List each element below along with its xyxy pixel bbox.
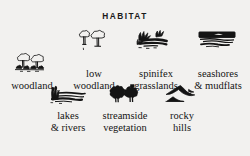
legend-row: lakes & rivers xyxy=(0,82,250,133)
legend-item-lakes-rivers: lakes & rivers xyxy=(40,82,97,133)
legend-item-label: rocky hills xyxy=(170,110,194,133)
low-woodland-trees-icon xyxy=(71,28,117,54)
legend-item-label: streamside vegetation xyxy=(103,110,148,133)
lake-river-reeds-icon xyxy=(45,82,91,108)
streamside-shrubs-icon xyxy=(102,82,148,108)
habitat-legend: HABITAT xyxy=(0,0,250,156)
legend-title: HABITAT xyxy=(10,11,240,21)
legend-item-streamside-vegetation: streamside vegetation xyxy=(97,82,154,133)
legend-item-label: lakes & rivers xyxy=(51,110,86,133)
spinifex-grass-tufts-icon xyxy=(133,28,179,54)
rocky-hills-peaks-icon xyxy=(159,82,205,108)
legend-item-rocky-hills: rocky hills xyxy=(154,82,211,133)
woodland-trees-icon xyxy=(9,51,55,77)
seashore-mudflat-horizon-icon xyxy=(195,28,241,54)
